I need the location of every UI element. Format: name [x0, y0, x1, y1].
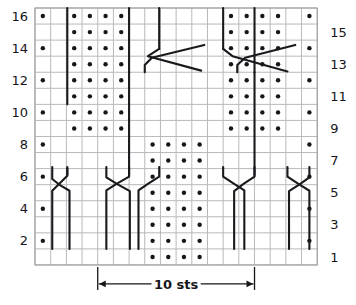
purl-dot [197, 174, 201, 178]
purl-dot [307, 142, 311, 146]
purl-dot [88, 126, 92, 130]
purl-dot [244, 126, 248, 130]
purl-dot [103, 62, 107, 66]
purl-dot [88, 110, 92, 114]
chart-grid [35, 8, 317, 265]
purl-dot [244, 110, 248, 114]
purl-dot [307, 14, 311, 18]
purl-dot [307, 110, 311, 114]
purl-dot [182, 174, 186, 178]
purl-dot [150, 239, 154, 243]
purl-dot [41, 239, 45, 243]
purl-dot [166, 239, 170, 243]
purl-dot [72, 62, 76, 66]
purl-dot [88, 46, 92, 50]
purl-dot [150, 207, 154, 211]
row-label-right: 5 [330, 185, 338, 200]
purl-dot [88, 30, 92, 34]
row-label-left: 8 [20, 137, 28, 152]
purl-dot [72, 30, 76, 34]
purl-dot [103, 78, 107, 82]
purl-dot [41, 46, 45, 50]
purl-dot [229, 126, 233, 130]
purl-dot [41, 142, 45, 146]
purl-dot [229, 30, 233, 34]
purl-dot [88, 78, 92, 82]
purl-dot [276, 14, 280, 18]
purl-dot [244, 62, 248, 66]
purl-dot [229, 62, 233, 66]
purl-dot [182, 190, 186, 194]
row-label-left: 2 [20, 233, 28, 248]
purl-dot [119, 30, 123, 34]
purl-dot [41, 110, 45, 114]
row-label-left: 4 [20, 201, 28, 216]
purl-dot [166, 190, 170, 194]
purl-dot [119, 62, 123, 66]
purl-dot [229, 78, 233, 82]
repeat-arrow-left-icon [99, 281, 106, 288]
purl-dot [197, 142, 201, 146]
purl-dot [197, 255, 201, 259]
purl-dot [244, 14, 248, 18]
purl-dot [103, 14, 107, 18]
purl-dot [182, 158, 186, 162]
repeat-label: 10 sts [154, 277, 199, 292]
purl-dot [229, 110, 233, 114]
purl-dot [150, 255, 154, 259]
purl-dot [41, 174, 45, 178]
repeat-arrow-right-icon [247, 281, 254, 288]
purl-dot [150, 190, 154, 194]
purl-dot [41, 78, 45, 82]
row-label-left: 16 [11, 9, 28, 24]
purl-dot [166, 142, 170, 146]
purl-dot [260, 78, 264, 82]
purl-dot [119, 94, 123, 98]
purl-dot [103, 30, 107, 34]
purl-dot [197, 239, 201, 243]
purl-dot [72, 94, 76, 98]
purl-dot [197, 223, 201, 227]
purl-dot [119, 110, 123, 114]
purl-dot [72, 46, 76, 50]
purl-dot [182, 207, 186, 211]
purl-dot [260, 126, 264, 130]
purl-dot [307, 46, 311, 50]
chart-canvas: 161412108642 15131197531 10 sts [0, 0, 356, 305]
row-label-right: 7 [330, 153, 338, 168]
purl-dot [276, 126, 280, 130]
repeat-bracket: 10 sts [98, 267, 255, 292]
purl-dot [88, 62, 92, 66]
purl-dot [229, 94, 233, 98]
purl-dot [72, 126, 76, 130]
purl-dot [119, 78, 123, 82]
purl-dot [244, 78, 248, 82]
purl-dot [88, 94, 92, 98]
purl-dot [103, 46, 107, 50]
purl-dot [103, 94, 107, 98]
row-labels-left: 161412108642 [11, 9, 28, 249]
purl-dot [197, 158, 201, 162]
purl-dot [119, 14, 123, 18]
purl-dot [41, 207, 45, 211]
purl-dot [182, 223, 186, 227]
purl-dot [119, 126, 123, 130]
row-label-right: 15 [330, 25, 347, 40]
row-label-right: 11 [330, 89, 347, 104]
purl-dot [150, 158, 154, 162]
row-label-right: 13 [330, 57, 347, 72]
row-label-right: 9 [330, 121, 338, 136]
purl-dot [182, 255, 186, 259]
purl-dot [166, 255, 170, 259]
cable-line [52, 167, 69, 249]
cable-line [52, 167, 67, 249]
purl-dot [150, 174, 154, 178]
purl-dot [166, 207, 170, 211]
row-label-left: 10 [11, 105, 28, 120]
purl-dot [260, 14, 264, 18]
purl-dot [276, 78, 280, 82]
purl-dot [103, 126, 107, 130]
row-label-right: 3 [330, 217, 338, 232]
purl-dot [244, 94, 248, 98]
purl-dot [244, 46, 248, 50]
